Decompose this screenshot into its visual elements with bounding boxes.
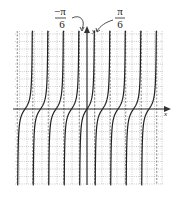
annotation-neg-pi-over-6: −π 6 bbox=[54, 5, 84, 31]
tangent-branch bbox=[64, 31, 79, 185]
arrow-left-icon bbox=[72, 17, 83, 29]
pi-numerator: π bbox=[117, 5, 123, 17]
neg-pi-numerator: −π bbox=[54, 5, 66, 17]
tangent-branch bbox=[126, 31, 141, 185]
tangent-branch bbox=[110, 31, 125, 185]
tangent-graph: −π 6 π 6 y x bbox=[0, 0, 175, 198]
axes bbox=[13, 26, 171, 185]
y-axis-label: y bbox=[91, 27, 96, 35]
tangent-branch bbox=[95, 31, 110, 185]
arrow-right-icon bbox=[97, 20, 113, 31]
pi-denominator: 6 bbox=[117, 18, 123, 30]
tangent-branch bbox=[48, 31, 63, 185]
x-axis-label: x bbox=[163, 110, 168, 118]
y-axis-arrow-icon bbox=[84, 26, 90, 33]
annotation-pi-over-6: π 6 bbox=[96, 5, 125, 32]
neg-pi-denominator: 6 bbox=[59, 18, 65, 30]
tangent-branch bbox=[33, 31, 48, 185]
